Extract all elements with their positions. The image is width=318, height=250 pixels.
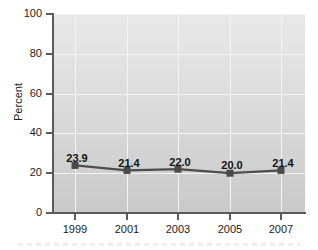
page-artifact-strip (18, 243, 300, 246)
data-label-1999: 23.9 (52, 152, 102, 164)
y-axis-label-0: 0 (2, 207, 42, 218)
y-axis-label-20: 20 (2, 167, 42, 178)
x-axis-tick (126, 214, 128, 220)
data-label-2005: 20.0 (207, 159, 257, 171)
data-series-line (53, 14, 305, 213)
x-axis-label-1999: 1999 (45, 223, 105, 235)
x-axis-label-2007: 2007 (251, 223, 311, 235)
x-axis-tick (229, 214, 231, 220)
x-axis-tick (74, 214, 76, 220)
y-axis-label-80: 80 (2, 48, 42, 59)
y-axis-tick (46, 13, 52, 15)
y-axis-tick (46, 172, 52, 174)
y-axis-label-100: 100 (2, 8, 42, 19)
y-axis-tick (46, 53, 52, 55)
x-axis-tick (177, 214, 179, 220)
data-label-2003: 22.0 (155, 156, 205, 168)
y-axis-tick (46, 212, 52, 214)
y-axis-tick (46, 132, 52, 134)
x-axis-label-2003: 2003 (148, 223, 208, 235)
line-chart: 0 20 40 60 80 100 Percent 1999 2001 2003… (0, 0, 318, 250)
data-label-2001: 21.4 (104, 157, 154, 169)
y-axis-title: Percent (12, 67, 24, 137)
x-axis-tick (280, 214, 282, 220)
data-label-2007: 21.4 (258, 157, 308, 169)
y-axis-tick (46, 93, 52, 95)
